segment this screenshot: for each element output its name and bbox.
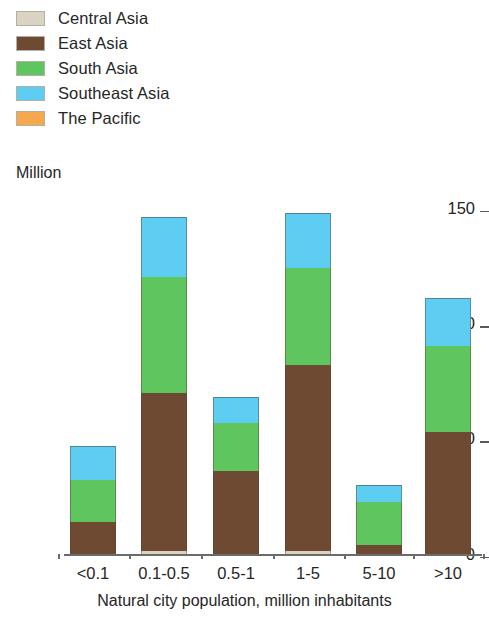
bar-segment->10-southeast-asia <box>425 298 471 346</box>
bar-<0.1[interactable] <box>70 446 116 554</box>
bar-1-5[interactable] <box>285 213 331 554</box>
bar-segment-0.1-0.5-south-asia <box>141 277 187 392</box>
bar-segment-0.1-0.5-central-asia <box>141 551 187 554</box>
x-axis-label-5-10: 5-10 <box>362 564 395 583</box>
x-axis-tick-mark <box>413 554 415 559</box>
y-axis-tick-mark <box>480 441 489 443</box>
bar-segment-5-10-south-asia <box>356 502 402 545</box>
x-axis-title: Natural city population, million inhabit… <box>0 592 489 610</box>
y-axis-tick-label: 150 <box>447 200 475 217</box>
bar-segment-1-5-southeast-asia <box>285 213 331 268</box>
y-axis-tick-mark <box>480 557 489 559</box>
x-axis-tick-mark <box>273 554 275 559</box>
x-axis-tick-mark <box>201 554 203 559</box>
bar-segment-1-5-east-asia <box>285 365 331 551</box>
bar-0.5-1[interactable] <box>213 397 259 554</box>
x-axis-label-0.5-1: 0.5-1 <box>217 564 255 583</box>
bar-segment-5-10-southeast-asia <box>356 485 402 502</box>
bar-0.1-0.5[interactable] <box>141 217 187 554</box>
x-axis-tick-mark <box>344 554 346 559</box>
bar-segment-<0.1-southeast-asia <box>70 446 116 481</box>
y-axis-tick-150: 150 <box>427 198 489 218</box>
bar-segment-<0.1-south-asia <box>70 480 116 522</box>
bar-segment->10-east-asia <box>425 432 471 554</box>
x-axis-tick-mark <box>483 554 485 559</box>
chart-plot-area: 050100150 <0.10.1-0.50.5-11-55-10>10 <box>0 0 489 620</box>
bar-segment-0.5-1-south-asia <box>213 423 259 471</box>
bar-segment->10-south-asia <box>425 346 471 431</box>
bar-5-10[interactable] <box>356 485 402 554</box>
bar-segment-1-5-central-asia <box>285 551 331 554</box>
bar-segment-<0.1-east-asia <box>70 522 116 554</box>
x-axis-label-<0.1: <0.1 <box>77 564 110 583</box>
bar-segment-5-10-east-asia <box>356 545 402 554</box>
x-axis-label->10: >10 <box>434 564 462 583</box>
x-axis-label-0.1-0.5: 0.1-0.5 <box>138 564 189 583</box>
x-axis-tick-mark <box>129 554 131 559</box>
bar->10[interactable] <box>425 298 471 554</box>
bar-segment-0.5-1-east-asia <box>213 471 259 554</box>
y-axis-tick-mark <box>480 326 489 328</box>
x-axis-tick-mark <box>58 554 60 559</box>
bar-segment-0.1-0.5-southeast-asia <box>141 217 187 277</box>
bar-segment-0.1-0.5-east-asia <box>141 393 187 551</box>
bar-segment-1-5-south-asia <box>285 268 331 365</box>
bar-segment-0.5-1-southeast-asia <box>213 397 259 422</box>
x-axis-label-1-5: 1-5 <box>296 564 320 583</box>
y-axis-tick-mark <box>480 211 489 213</box>
